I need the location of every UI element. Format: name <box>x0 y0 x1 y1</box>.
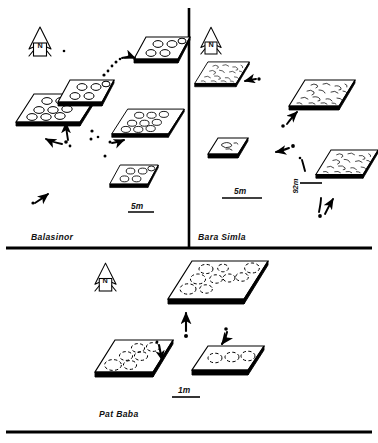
panel-label-bara-simla: Bara Simla <box>198 232 246 242</box>
scale-bar-icon: 1m <box>172 385 200 397</box>
distance-annotation: 92m <box>291 178 322 193</box>
north-arrow-icon: N <box>201 27 221 54</box>
nest-platform-icon <box>289 80 355 110</box>
scale-bar-label: 5m <box>131 201 144 211</box>
north-arrow-icon: N <box>95 263 116 291</box>
nest-platform-icon <box>110 165 159 188</box>
nest-platform-icon <box>134 37 190 63</box>
nest-platform-icon <box>168 261 268 304</box>
north-arrow-icon: N <box>29 27 51 56</box>
nest-platform-icon <box>192 346 264 375</box>
scale-bar-label: 1m <box>178 385 191 395</box>
panel-label-pat-baba: Pat Baba <box>99 409 139 419</box>
panel-label-balasinor: Balasinor <box>31 232 74 242</box>
panel-dividers <box>6 8 372 432</box>
nest-platform-icon <box>112 109 184 137</box>
scale-bar-label: 5m <box>234 186 247 196</box>
nest-platform-icon <box>195 62 250 87</box>
north-arrow-label: N <box>37 41 42 50</box>
site-map-figure: N <box>0 0 378 443</box>
north-arrow-label: N <box>208 40 213 49</box>
nest-platform-icon <box>208 138 248 158</box>
nest-platform-icon <box>58 80 114 106</box>
figure-root: N <box>0 0 378 443</box>
scale-bar-icon: 5m <box>222 186 262 198</box>
scale-bar-icon: 5m <box>128 201 154 212</box>
north-arrow-label: N <box>102 276 107 285</box>
panel-pat-baba: N 1m <box>95 261 268 419</box>
panel-bara-simla: N <box>195 27 378 242</box>
panel-balasinor: N <box>16 27 190 242</box>
locator-dot-icon <box>31 50 121 205</box>
nest-platform-icon <box>316 150 378 178</box>
distance-label: 92m <box>291 178 300 193</box>
